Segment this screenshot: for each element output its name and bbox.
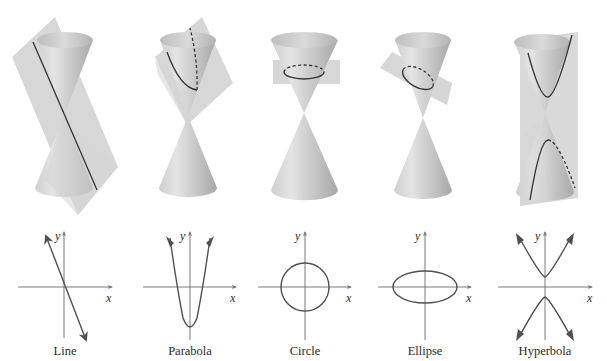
lower-nappe <box>394 118 452 199</box>
x-axis-label: x <box>229 291 236 305</box>
upper-rim <box>395 32 451 48</box>
upper-rim <box>271 32 337 48</box>
line-curve <box>46 236 86 340</box>
y-axis-label: y <box>294 229 301 243</box>
lower-nappe <box>271 113 338 200</box>
caption-ellipse: Ellipse <box>408 344 443 358</box>
caption-hyperbola: Hyperbola <box>519 344 572 358</box>
upper-rim <box>514 34 570 50</box>
graph-circle: x y Circle <box>258 229 352 358</box>
caption-circle: Circle <box>290 344 321 358</box>
graph-hyperbola: x y Hyperbola <box>498 229 593 358</box>
arrow-left-icon <box>166 236 174 247</box>
x-axis-label: x <box>465 291 472 305</box>
y-axis-label: y <box>534 229 541 243</box>
cone-hyperbola <box>514 32 578 206</box>
y-axis-label: y <box>54 229 61 243</box>
cone-line <box>12 17 118 215</box>
caption-line: Line <box>54 344 77 358</box>
graph-line: x y Line <box>18 229 112 358</box>
conic-sections-figure: x y Line x y Parabola x y Circle x y Ell… <box>0 0 607 361</box>
cone-parabola <box>155 17 233 197</box>
x-axis-label: x <box>345 291 352 305</box>
cone-ellipse <box>380 32 452 199</box>
arrow-right-icon <box>206 236 214 247</box>
y-axis-label: y <box>414 229 421 243</box>
upper-rim <box>160 32 216 48</box>
x-axis-label: x <box>586 291 593 305</box>
x-axis-label: x <box>105 291 112 305</box>
cutting-plane-front <box>428 83 452 105</box>
cone-circle <box>271 32 340 200</box>
graph-ellipse: x y Ellipse <box>378 229 472 358</box>
upper-rim <box>37 32 93 48</box>
y-axis-label: y <box>179 229 186 243</box>
graph-parabola: x y Parabola <box>143 229 236 358</box>
caption-parabola: Parabola <box>168 344 212 358</box>
lower-nappe <box>159 116 217 197</box>
